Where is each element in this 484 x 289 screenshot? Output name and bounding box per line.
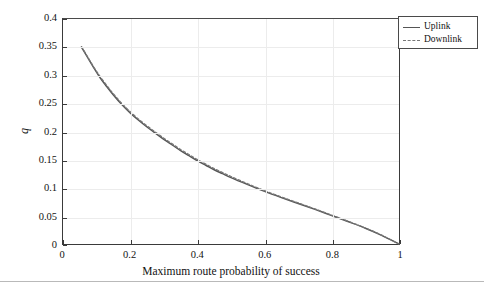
y-tick-label: 0.2 (44, 126, 57, 137)
x-axis-tick (333, 240, 334, 244)
x-axis-tick (63, 240, 64, 244)
gridline-vertical (333, 19, 334, 244)
x-axis-tick (131, 240, 132, 244)
gridline-vertical (266, 19, 267, 244)
plot-area (62, 18, 400, 245)
y-axis-title: q (18, 128, 30, 134)
y-tick-label: 0.1 (44, 183, 57, 194)
page-rule (0, 281, 484, 282)
y-tick-label: 0.35 (39, 41, 57, 52)
x-axis-tick (266, 240, 267, 244)
legend-entry-uplink[interactable]: Uplink (403, 20, 473, 33)
y-axis-tick (63, 104, 67, 105)
x-tick-label: 0.6 (258, 250, 271, 261)
x-tick-label: 1 (397, 250, 402, 261)
x-tick-label: 0.8 (326, 250, 339, 261)
gridline-horizontal (63, 218, 399, 219)
y-axis-tick (63, 19, 67, 20)
y-tick-label: 0.4 (44, 13, 57, 24)
y-tick-label: 0.25 (39, 98, 57, 109)
legend-label: Downlink (424, 35, 462, 45)
legend-swatch-dashed-icon (403, 35, 420, 45)
gridline-horizontal (63, 47, 399, 48)
y-tick-label: 0.15 (39, 155, 57, 166)
y-tick-label: 0.3 (44, 70, 57, 81)
legend[interactable]: UplinkDownlink (398, 16, 478, 49)
gridline-horizontal (63, 76, 399, 77)
y-axis-tick (63, 161, 67, 162)
gridline-vertical (131, 19, 132, 244)
y-axis-tick (63, 189, 67, 190)
gridline-horizontal (63, 133, 399, 134)
legend-label: Uplink (424, 22, 450, 32)
gridline-vertical (198, 19, 199, 244)
y-axis-tick (63, 245, 67, 246)
y-tick-label: 0.05 (39, 211, 57, 222)
legend-swatch-solid-icon (403, 22, 420, 32)
y-tick-label: 0 (52, 240, 57, 251)
gridline-horizontal (63, 161, 399, 162)
gridline-horizontal (63, 104, 399, 105)
x-tick-label: 0.2 (123, 250, 136, 261)
legend-entry-downlink[interactable]: Downlink (403, 33, 473, 46)
gridline-horizontal (63, 189, 399, 190)
x-axis-tick (400, 240, 401, 244)
y-axis-tick (63, 47, 67, 48)
x-axis-tick (198, 240, 199, 244)
figure-canvas: 00.050.10.150.20.250.30.350.4 q 00.20.40… (0, 0, 484, 289)
x-axis-title: Maximum route probability of success (62, 266, 400, 278)
x-axis-tick-labels: 00.20.40.60.81 (62, 250, 400, 264)
y-axis-tick (63, 218, 67, 219)
data-curves (63, 19, 399, 244)
x-tick-label: 0 (59, 250, 64, 261)
y-axis-tick (63, 76, 67, 77)
y-axis-tick (63, 133, 67, 134)
x-tick-label: 0.4 (191, 250, 204, 261)
